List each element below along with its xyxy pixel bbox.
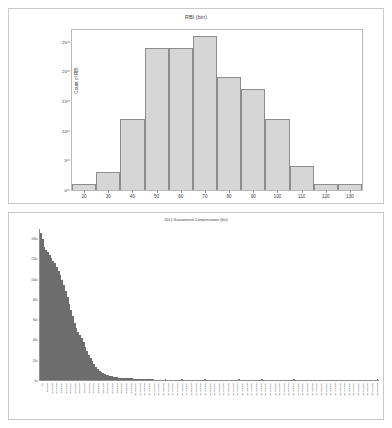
top-chart-y-tick-mark bbox=[67, 130, 70, 131]
bottom-chart-y-tick-mark bbox=[36, 360, 38, 361]
bottom-chart-x-tick-label: $2,550,000 bbox=[278, 383, 281, 396]
bottom-chart-x-tick-label: $3,200,000 bbox=[338, 383, 341, 396]
bottom-chart-x-tick-label: $900,000 bbox=[124, 383, 127, 393]
bottom-chart-x-tick-label: $1,550,000 bbox=[185, 383, 188, 396]
bottom-chart-bar bbox=[261, 379, 263, 380]
top-chart-x-tick-mark bbox=[84, 190, 85, 193]
bottom-chart-x-tick-label: $3,000,000 bbox=[319, 383, 322, 396]
bottom-chart-x-tick-label: $1,800,000 bbox=[208, 383, 211, 396]
bottom-chart-y-tick-mark bbox=[36, 299, 38, 300]
bottom-chart-bar bbox=[181, 379, 183, 380]
bottom-chart-y-tick-mark bbox=[36, 279, 38, 280]
bottom-chart-bar bbox=[293, 379, 295, 380]
bottom-chart-x-tick-label: $250,000 bbox=[64, 383, 67, 393]
bottom-chart-x-tick-label: $2,600,000 bbox=[282, 383, 285, 396]
bottom-chart-x-tick-label: $2,100,000 bbox=[236, 383, 239, 396]
bottom-chart-y-tick-mark bbox=[36, 259, 38, 260]
top-chart-bars bbox=[72, 30, 362, 190]
top-chart-x-tick-label: 90 bbox=[251, 194, 256, 199]
bottom-chart-x-tick-label: $2,050,000 bbox=[231, 383, 234, 396]
bottom-chart-x-tick-label: $1,300,000 bbox=[162, 383, 165, 396]
bottom-chart-x-tick-label: $1,400,000 bbox=[171, 383, 174, 396]
top-chart-x-tick-label: 40 bbox=[130, 194, 135, 199]
bottom-chart-x-tick-label: $3,300,000 bbox=[347, 383, 350, 396]
bottom-chart-x-tick-label: $3,600,000 bbox=[375, 383, 378, 396]
top-chart-x-tick-mark bbox=[108, 190, 109, 193]
top-chart-x-tick-label: 110 bbox=[298, 194, 305, 199]
bottom-chart-bar bbox=[152, 379, 154, 380]
bottom-chart-bar bbox=[238, 379, 240, 380]
bottom-chart-x-tick-label: $150,000 bbox=[55, 383, 58, 393]
bottom-chart-x-tick-label: $1,000,000 bbox=[134, 383, 137, 396]
bottom-chart-x-tick-label: $450,000 bbox=[83, 383, 86, 393]
bottom-chart-x-tick-label: $2,250,000 bbox=[250, 383, 253, 396]
top-chart-x-tick-label: 50 bbox=[154, 194, 159, 199]
top-chart-bar bbox=[241, 89, 265, 190]
bottom-chart-x-tick-label: $2,900,000 bbox=[310, 383, 313, 396]
bottom-chart-x-tick-label: $50,000 bbox=[45, 383, 48, 392]
bottom-chart-x-tick-label: $950,000 bbox=[129, 383, 132, 393]
bottom-chart-y-tick-mark bbox=[36, 320, 38, 321]
top-chart-panel: RBI (bin) Count of RBI 0510152025 203040… bbox=[8, 8, 384, 204]
bottom-chart-x-tick-label: $1,700,000 bbox=[199, 383, 202, 396]
top-chart-title: RBI (bin) bbox=[9, 14, 383, 20]
bottom-chart-plot-area: Count of 2012 Guaranteed Compensation 02… bbox=[39, 229, 379, 381]
bottom-chart-panel: 2012 Guaranteed Compensation (bin) Count… bbox=[8, 212, 384, 420]
bottom-chart-x-tick-label: $2,800,000 bbox=[301, 383, 304, 396]
bottom-chart-x-tick-label: $1,150,000 bbox=[148, 383, 151, 396]
bottom-chart-x-tick-label: $2,650,000 bbox=[287, 383, 290, 396]
bottom-chart-x-tick-label: $200,000 bbox=[59, 383, 62, 393]
top-chart-x-tick-label: 60 bbox=[178, 194, 183, 199]
bottom-chart-x-tick-label: $1,750,000 bbox=[203, 383, 206, 396]
bottom-chart-x-tick-label: $3,500,000 bbox=[366, 383, 369, 396]
bottom-chart-x-tick-label: $650,000 bbox=[101, 383, 104, 393]
bottom-chart-x-tick-label: $2,000,000 bbox=[227, 383, 230, 396]
bottom-chart-y-tick-mark bbox=[36, 340, 38, 341]
bottom-chart-x-tick-label: $600,000 bbox=[97, 383, 100, 393]
top-chart-x-tick-mark bbox=[302, 190, 303, 193]
bottom-chart-x-tick-label: $3,550,000 bbox=[371, 383, 374, 396]
top-chart-y-tick-mark bbox=[67, 71, 70, 72]
bottom-chart-bar bbox=[204, 379, 206, 380]
bottom-chart-y-ticks: 020406080100120140 bbox=[28, 229, 38, 381]
bottom-chart-x-tick-label: $750,000 bbox=[110, 383, 113, 393]
bottom-chart-x-tick-label: $300,000 bbox=[69, 383, 72, 393]
bottom-chart-x-tick-label: $1,250,000 bbox=[157, 383, 160, 396]
bottom-chart-y-tick-mark bbox=[36, 239, 38, 240]
bottom-chart-x-tick-label: $2,700,000 bbox=[292, 383, 295, 396]
bottom-chart-x-tick-label: $3,050,000 bbox=[324, 383, 327, 396]
bottom-chart-x-tick-label: $2,750,000 bbox=[296, 383, 299, 396]
top-chart-x-tick-label: 120 bbox=[322, 194, 330, 199]
bottom-chart-x-tick-label: $2,500,000 bbox=[273, 383, 276, 396]
top-chart-x-tick-mark bbox=[132, 190, 133, 193]
top-chart-x-tick-mark bbox=[253, 190, 254, 193]
top-chart-x-ticks: 2030405060708090100110120130 bbox=[72, 190, 362, 206]
top-chart-bar bbox=[145, 48, 169, 190]
top-chart-bar bbox=[290, 166, 314, 190]
bottom-chart-x-tick-label: $3,350,000 bbox=[352, 383, 355, 396]
bottom-chart-x-tick-label: $1,650,000 bbox=[194, 383, 197, 396]
top-chart-x-tick-mark bbox=[181, 190, 182, 193]
top-chart-y-tick-mark bbox=[67, 41, 70, 42]
bottom-chart-x-tick-label: $1,600,000 bbox=[189, 383, 192, 396]
bottom-chart-x-tick-label: $350,000 bbox=[73, 383, 76, 393]
bottom-chart-x-tick-label: $3,250,000 bbox=[343, 383, 346, 396]
top-chart-x-tick-label: 100 bbox=[274, 194, 282, 199]
bottom-chart-x-tick-label: $3,150,000 bbox=[333, 383, 336, 396]
bottom-chart-x-tick-label: $1,200,000 bbox=[152, 383, 155, 396]
top-chart-bar bbox=[193, 36, 217, 190]
top-chart-x-tick-mark bbox=[350, 190, 351, 193]
bottom-chart-x-tick-label: $2,450,000 bbox=[268, 383, 271, 396]
top-chart-x-tick-mark bbox=[229, 190, 230, 193]
bottom-chart-x-tick-label: $2,350,000 bbox=[259, 383, 262, 396]
bottom-chart-x-tick-label: $550,000 bbox=[92, 383, 95, 393]
top-chart-bar bbox=[169, 48, 193, 190]
bottom-chart-x-tick-label: $2,300,000 bbox=[254, 383, 257, 396]
top-chart-plot-area: Count of RBI 0510152025 2030405060708090… bbox=[71, 29, 363, 191]
screenshot-root: RBI (bin) Count of RBI 0510152025 203040… bbox=[0, 0, 392, 428]
bottom-chart-x-tick-label: $700,000 bbox=[106, 383, 109, 393]
bottom-chart-x-tick-label: $500,000 bbox=[87, 383, 90, 393]
top-chart-x-tick-mark bbox=[157, 190, 158, 193]
top-chart-x-tick-mark bbox=[326, 190, 327, 193]
top-chart-x-tick-mark bbox=[205, 190, 206, 193]
